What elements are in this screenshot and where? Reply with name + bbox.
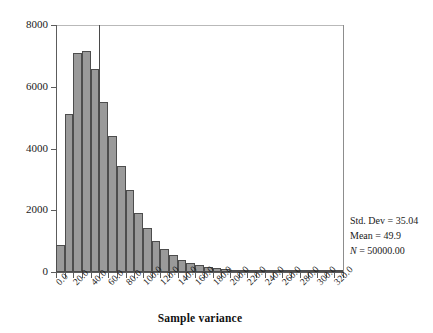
y-tick-label: 0 [2, 266, 48, 277]
histogram-bar [134, 213, 143, 272]
y-tick-label-wrap: 2000 [0, 204, 48, 215]
stat-mean: Mean = 49.9 [350, 228, 433, 243]
histogram-bar [82, 51, 91, 272]
histogram-bar [143, 228, 152, 272]
y-tick-label: 6000 [2, 81, 48, 92]
stat-n-value: = 50000.00 [357, 245, 405, 256]
y-tick-label: 2000 [2, 204, 48, 215]
y-tick-label-wrap: 6000 [0, 81, 48, 92]
y-tick-label-wrap: 8000 [0, 19, 48, 30]
stat-n-symbol: N [350, 245, 357, 256]
y-tick-label: 4000 [2, 143, 48, 154]
y-tick-label-wrap: 0 [0, 266, 48, 277]
y-tick-label-wrap: 4000 [0, 143, 48, 154]
histogram-bar [56, 245, 65, 272]
histogram-bar [73, 53, 82, 272]
histogram-bar [117, 166, 126, 272]
histogram-bar [65, 114, 74, 272]
histogram-bar [108, 136, 117, 272]
plot-frame-right [343, 25, 344, 273]
y-tick-label: 8000 [2, 19, 48, 30]
statistics-block: Std. Dev = 35.04 Mean = 49.9 N = 50000.0… [350, 213, 433, 258]
mean-reference-line-segment [99, 25, 100, 149]
stat-std-dev: Std. Dev = 35.04 [350, 213, 433, 228]
histogram-figure: 02000400060008000 0.020.040.060.080.0100… [0, 0, 433, 333]
histogram-bar [126, 190, 135, 272]
x-axis-title: Sample variance [56, 312, 344, 324]
histogram-bar [99, 102, 108, 272]
histogram-bar [91, 69, 100, 272]
stat-n: N = 50000.00 [350, 243, 433, 258]
